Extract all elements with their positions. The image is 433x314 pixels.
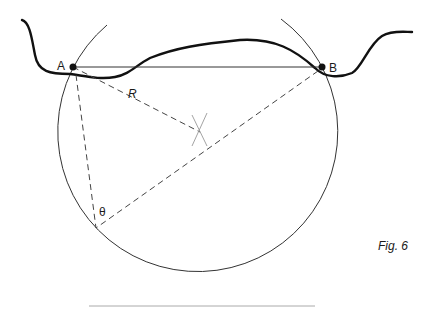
label-angle: θ — [99, 205, 106, 219]
circle-arc — [58, 19, 338, 272]
label-a: A — [57, 59, 65, 73]
point-a-marker — [70, 64, 77, 71]
diagram-canvas: A B R θ Fig. 6 — [0, 0, 433, 314]
label-b: B — [329, 61, 337, 75]
label-radius: R — [128, 87, 137, 101]
point-b-marker — [319, 64, 326, 71]
ground-profile — [22, 20, 412, 78]
figure-caption: Fig. 6 — [378, 239, 408, 253]
